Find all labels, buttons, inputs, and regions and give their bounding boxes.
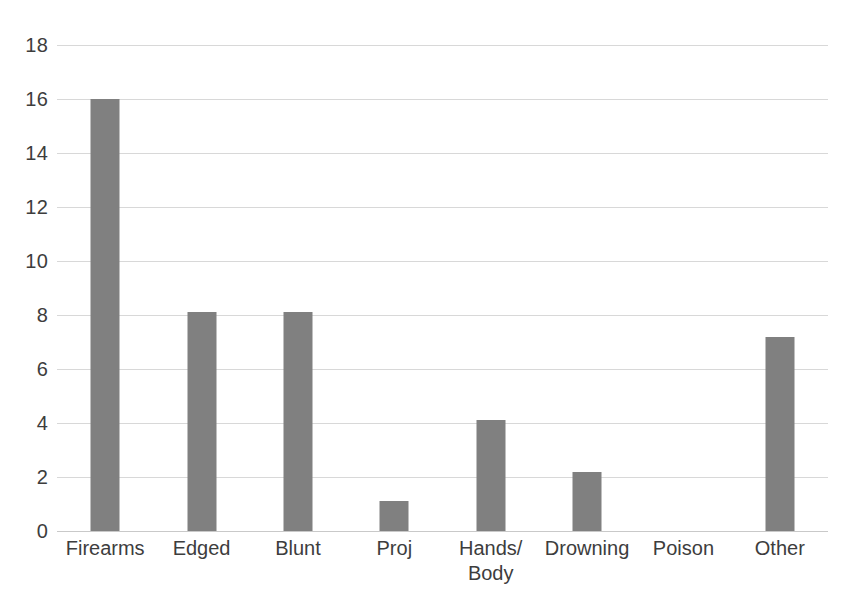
y-axis-tick-label: 6 <box>4 359 48 379</box>
bar[interactable] <box>283 312 312 531</box>
bar[interactable] <box>765 337 794 531</box>
y-axis-tick-label: 10 <box>4 251 48 271</box>
x-axis-category-label: Edged <box>153 536 249 561</box>
bar-slot <box>635 45 731 531</box>
bar-slot <box>250 45 346 531</box>
y-axis-tick-label: 14 <box>4 143 48 163</box>
bar-slot <box>153 45 249 531</box>
bar-slot <box>346 45 442 531</box>
bar-chart: 024681012141618 FirearmsEdgedBluntProjHa… <box>0 0 855 606</box>
x-axis-category-label: Drowning <box>539 536 635 561</box>
bar[interactable] <box>187 312 216 531</box>
x-axis-category-label: Poison <box>635 536 731 561</box>
bar[interactable] <box>380 501 409 531</box>
y-axis-tick-label: 2 <box>4 467 48 487</box>
y-axis-tick-label: 0 <box>4 521 48 541</box>
y-axis-tick-label: 18 <box>4 35 48 55</box>
x-axis-category-labels: FirearmsEdgedBluntProjHands/ BodyDrownin… <box>57 536 828 598</box>
x-axis-category-label: Proj <box>346 536 442 561</box>
bar[interactable] <box>573 472 602 531</box>
bar[interactable] <box>476 420 505 531</box>
bars-layer <box>57 45 828 531</box>
bar-slot <box>539 45 635 531</box>
bar-slot <box>57 45 153 531</box>
bar-slot <box>732 45 828 531</box>
x-axis-category-label: Firearms <box>57 536 153 561</box>
y-axis-tick-label: 12 <box>4 197 48 217</box>
y-axis-tick-label: 16 <box>4 89 48 109</box>
bar-slot <box>443 45 539 531</box>
x-axis-category-label: Hands/ Body <box>443 536 539 586</box>
gridline-0 <box>57 531 828 532</box>
y-axis-tick-label: 4 <box>4 413 48 433</box>
x-axis-category-label: Blunt <box>250 536 346 561</box>
x-axis-category-label: Other <box>732 536 828 561</box>
y-axis-tick-labels: 024681012141618 <box>0 45 48 531</box>
bar[interactable] <box>91 99 120 531</box>
y-axis-tick-label: 8 <box>4 305 48 325</box>
